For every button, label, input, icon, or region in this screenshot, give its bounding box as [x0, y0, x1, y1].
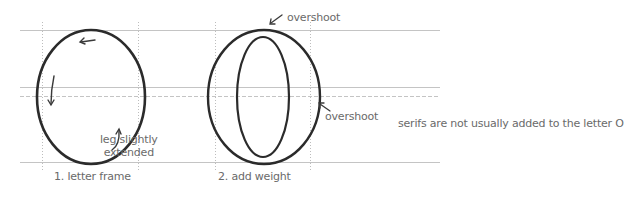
annotation-line-1: leg slightly [100, 133, 158, 146]
overshoot-top-label: overshoot [287, 11, 340, 24]
caption-letter-frame: 1. letter frame [54, 170, 131, 183]
overshoot-right-label: overshoot [325, 110, 378, 123]
caption-add-weight: 2. add weight [218, 170, 291, 183]
leg-annotation: leg slightly extended [100, 133, 158, 159]
guide-lines [20, 31, 440, 163]
serif-note: serifs are not usually added to the lett… [398, 117, 624, 130]
overshoot-top-arrow-icon [271, 15, 282, 23]
annotation-line-2: extended [100, 146, 158, 159]
arrow-top-left-icon [81, 40, 95, 42]
